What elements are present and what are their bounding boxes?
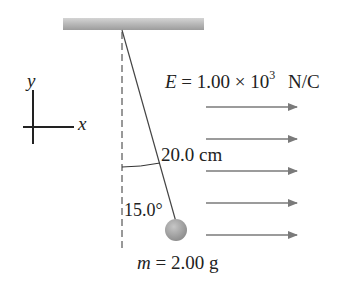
field-base: 10	[250, 71, 269, 92]
electric-field-arrows	[206, 107, 297, 235]
field-times: ×	[235, 71, 246, 92]
mass-value: 2.00 g	[171, 252, 219, 273]
field-label: E = 1.00 × 103 N/C	[165, 71, 320, 91]
angle-arc	[122, 163, 160, 167]
field-units: N/C	[288, 71, 320, 92]
mass-equals: =	[155, 252, 166, 273]
x-axis-label: x	[78, 114, 86, 133]
mass-label: m = 2.00 g	[137, 253, 218, 272]
string-length-label: 20.0 cm	[161, 145, 222, 164]
angle-label: 15.0°	[124, 201, 163, 219]
field-equals: =	[181, 71, 192, 92]
field-mantissa: 1.00	[197, 71, 230, 92]
mass-symbol: m	[137, 252, 151, 273]
pendulum-string	[122, 30, 176, 222]
diagram-canvas	[0, 0, 355, 286]
ceiling-support	[63, 18, 204, 30]
coordinate-axes-icon	[23, 90, 74, 144]
y-axis-label: y	[27, 71, 35, 90]
charged-ball	[165, 219, 187, 241]
field-symbol: E	[165, 71, 177, 92]
field-exponent: 3	[269, 68, 275, 82]
